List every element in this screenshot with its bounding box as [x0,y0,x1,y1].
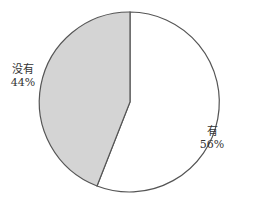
slice-label-no-percent: 44% [6,76,40,89]
slice-label-yes: 有 56% [196,125,228,151]
slice-label-yes-percent: 56% [196,138,228,151]
pie-chart [0,0,254,200]
slice-label-yes-name: 有 [196,125,228,138]
slice-label-no: 没有 44% [6,63,40,89]
slice-label-no-name: 没有 [6,63,40,76]
